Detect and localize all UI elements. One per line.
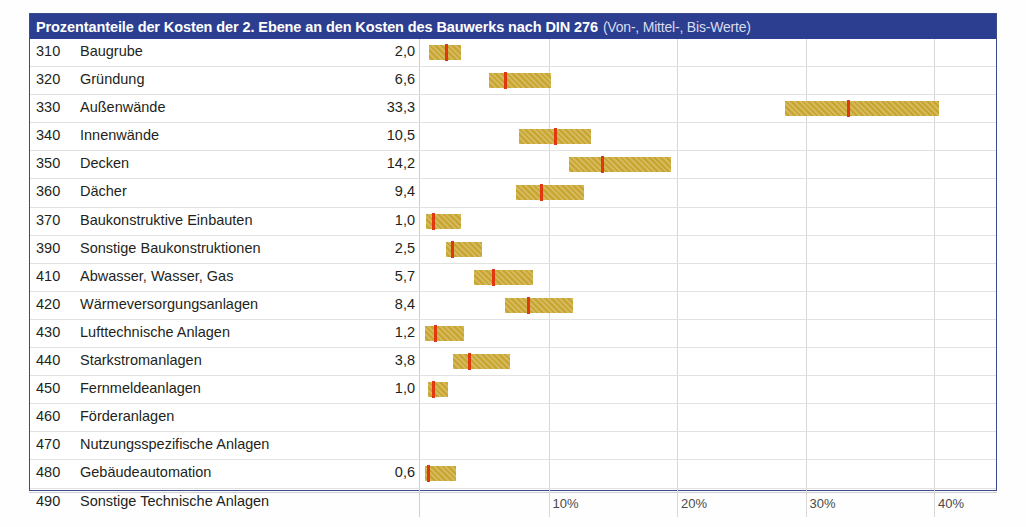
- table-row[interactable]: 360Dächer9,4: [30, 179, 996, 207]
- row-code: 360: [36, 183, 72, 199]
- gridline: [806, 320, 807, 347]
- range-bar: [785, 101, 939, 116]
- table-row[interactable]: 350Decken14,2: [30, 151, 996, 179]
- chart-table-frame: Prozentanteile der Kosten der 2. Ebene a…: [29, 13, 997, 491]
- row-label: Decken: [80, 155, 129, 171]
- gridline: [677, 292, 678, 319]
- row-code: 390: [36, 240, 72, 256]
- gridline: [934, 236, 935, 263]
- row-plot-cell: [419, 432, 996, 459]
- mean-marker: [434, 325, 437, 342]
- row-code: 430: [36, 324, 72, 340]
- row-label: Sonstige Technische Anlagen: [80, 493, 269, 509]
- row-code: 480: [36, 464, 72, 480]
- row-value: 33,3: [330, 99, 415, 115]
- gridline: [934, 292, 935, 319]
- range-bar: [453, 354, 510, 369]
- row-value: 5,7: [330, 268, 415, 284]
- gridline: [806, 236, 807, 263]
- gridline: [677, 67, 678, 94]
- table-row[interactable]: 440Starkstromanlagen3,8: [30, 348, 996, 376]
- row-label: Innenwände: [80, 127, 159, 143]
- gridline: [677, 460, 678, 487]
- table-row[interactable]: 410Abwasser, Wasser, Gas5,7: [30, 264, 996, 292]
- gridline: [549, 348, 550, 375]
- chart-title-bar: Prozentanteile der Kosten der 2. Ebene a…: [30, 14, 996, 39]
- gridline: [934, 151, 935, 178]
- row-label: Wärmeversorgungsanlagen: [80, 296, 258, 312]
- row-plot-cell: [419, 264, 996, 291]
- row-value: 14,2: [330, 155, 415, 171]
- row-value: 1,0: [330, 380, 415, 396]
- row-value: 1,0: [330, 212, 415, 228]
- gridline: [934, 264, 935, 291]
- table-row[interactable]: 430Lufttechnische Anlagen1,2: [30, 320, 996, 348]
- gridline: [934, 460, 935, 487]
- row-label: Nutzungsspezifische Anlagen: [80, 436, 269, 452]
- row-plot-cell: [419, 292, 996, 319]
- table-row[interactable]: 330Außenwände33,3: [30, 95, 996, 123]
- gridline: [677, 236, 678, 263]
- gridline: [806, 376, 807, 403]
- mean-marker: [847, 100, 850, 117]
- table-row[interactable]: 480Gebäudeautomation0,6: [30, 460, 996, 488]
- row-code: 370: [36, 212, 72, 228]
- gridline: [549, 404, 550, 431]
- row-label: Lufttechnische Anlagen: [80, 324, 230, 340]
- range-bar: [516, 185, 584, 200]
- mean-marker: [504, 72, 507, 89]
- gridline: [806, 179, 807, 206]
- table-row[interactable]: 310Baugrube2,0: [30, 39, 996, 67]
- table-row[interactable]: 340Innenwände10,5: [30, 123, 996, 151]
- gridline: [677, 376, 678, 403]
- row-code: 440: [36, 352, 72, 368]
- row-code: 340: [36, 127, 72, 143]
- gridline: [677, 39, 678, 66]
- axis-tick-label: 40%: [938, 496, 964, 511]
- range-bar: [474, 270, 533, 285]
- row-label: Gebäudeautomation: [80, 464, 211, 480]
- table-row[interactable]: 390Sonstige Baukonstruktionen2,5: [30, 236, 996, 264]
- table-row[interactable]: 370Baukonstruktive Einbauten1,0: [30, 208, 996, 236]
- row-plot-cell: [419, 236, 996, 263]
- gridline: [677, 208, 678, 235]
- gridline: [806, 208, 807, 235]
- row-label: Sonstige Baukonstruktionen: [80, 240, 261, 256]
- row-label: Abwasser, Wasser, Gas: [80, 268, 233, 284]
- gridline: [677, 151, 678, 178]
- mean-marker: [468, 353, 471, 370]
- mean-marker: [427, 465, 430, 482]
- row-value: 8,4: [330, 296, 415, 312]
- gridline: [806, 67, 807, 94]
- gridline: [934, 208, 935, 235]
- table-row[interactable]: 420Wärmeversorgungsanlagen8,4: [30, 292, 996, 320]
- mean-marker: [540, 184, 543, 201]
- gridline: [806, 39, 807, 66]
- row-code: 420: [36, 296, 72, 312]
- gridline: [549, 460, 550, 487]
- table-row[interactable]: 460Förderanlagen: [30, 404, 996, 432]
- table-row[interactable]: 450Fernmeldeanlagen1,0: [30, 376, 996, 404]
- table-row[interactable]: 320Gründung6,6: [30, 67, 996, 95]
- gridline: [934, 123, 935, 150]
- mean-marker: [527, 297, 530, 314]
- row-plot-cell: [419, 320, 996, 347]
- row-plot-cell: [419, 404, 996, 431]
- axis-tick-label: 30%: [810, 496, 836, 511]
- row-value: 6,6: [330, 71, 415, 87]
- table-row[interactable]: 470Nutzungsspezifische Anlagen: [30, 432, 996, 460]
- gridline: [549, 95, 550, 122]
- gridline: [677, 123, 678, 150]
- row-label: Dächer: [80, 183, 127, 199]
- row-label: Baukonstruktive Einbauten: [80, 212, 253, 228]
- row-plot-cell: [419, 123, 996, 150]
- axis-tick-label: 10%: [553, 496, 579, 511]
- row-code: 490: [36, 493, 72, 509]
- gridline: [677, 95, 678, 122]
- gridline: [549, 236, 550, 263]
- gridline: [549, 320, 550, 347]
- gridline: [934, 179, 935, 206]
- row-code: 320: [36, 71, 72, 87]
- gridline: [934, 404, 935, 431]
- row-value: 10,5: [330, 127, 415, 143]
